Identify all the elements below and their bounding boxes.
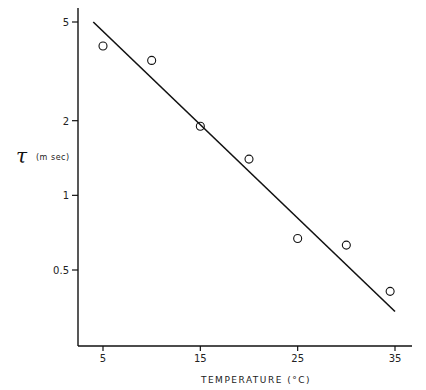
x-tick-label: 25 [291, 353, 304, 364]
data-point [196, 122, 204, 130]
x-tick-label: 35 [389, 353, 402, 364]
x-axis-title: TEMPERATURE (°C) [200, 375, 311, 385]
y-tick-label: 0.5 [53, 265, 69, 276]
fit-line [93, 22, 395, 312]
x-tick-label: 15 [194, 353, 207, 364]
chart: 5210.55152535TEMPERATURE (°C)τ(m sec) [0, 0, 426, 390]
data-point [99, 42, 107, 50]
y-axis-unit: (m sec) [36, 153, 70, 162]
data-point [342, 241, 350, 249]
y-tick-label: 2 [63, 116, 69, 127]
data-point [386, 287, 394, 295]
data-point [148, 56, 156, 64]
data-point [294, 234, 302, 242]
y-tick-label: 5 [63, 17, 69, 28]
x-tick-label: 5 [100, 353, 106, 364]
y-tick-label: 1 [63, 190, 69, 201]
y-axis-symbol: τ [16, 144, 28, 168]
data-point [245, 155, 253, 163]
